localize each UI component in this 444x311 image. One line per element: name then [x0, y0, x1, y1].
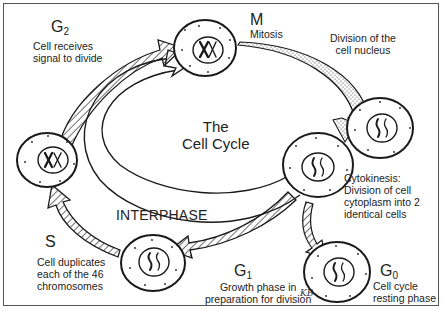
phase-s-description: Cell duplicates each of the 46 chromosom…: [37, 256, 105, 292]
s-arrow-icon: [48, 185, 120, 257]
phase-g1-label: G1: [234, 262, 252, 282]
phase-m-label: M: [250, 11, 263, 29]
phase-g0-label: G0: [380, 262, 398, 282]
phase-g2-label: G2: [51, 18, 69, 38]
phase-g0-description: Cell cycle resting phase: [373, 280, 436, 304]
cell-g1: [121, 235, 185, 291]
g1-arrow-icon: [170, 192, 296, 258]
cell-s-phase: [17, 133, 77, 187]
diagram-title: The Cell Cycle: [182, 118, 250, 153]
artist-signature: KB: [300, 288, 313, 298]
phase-m-description: Mitosis: [250, 28, 283, 40]
cell-mitosis: [174, 20, 236, 76]
phase-g2-description: Cell receives signal to divide: [33, 40, 102, 64]
cell-cytokinesis: [283, 133, 353, 197]
cell-daughter: [347, 98, 413, 158]
cell-g0: [304, 242, 370, 302]
cytokinesis-description: Cytokinesis: Division of cell cytoplasm …: [344, 172, 420, 220]
interphase-label: INTERPHASE: [116, 207, 207, 223]
phase-s-label: S: [45, 233, 56, 251]
phase-g1-description: Growth phase in preparation for division: [205, 281, 311, 305]
division-nucleus-description: Division of the cell nucleus: [330, 32, 396, 56]
